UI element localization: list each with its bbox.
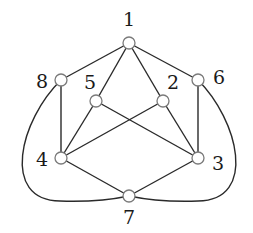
node-4 (55, 152, 67, 164)
node-3 (192, 152, 204, 164)
graph-diagram: 1 2 3 4 5 6 7 8 (0, 0, 253, 233)
node-label-2: 2 (167, 71, 179, 93)
node-label-1: 1 (123, 8, 135, 30)
node-1 (123, 37, 135, 49)
edge-2-3 (163, 101, 198, 158)
node-label-3: 3 (212, 152, 224, 174)
node-2 (157, 95, 169, 107)
node-5 (90, 95, 102, 107)
node-label-8: 8 (36, 70, 48, 92)
node-label-4: 4 (36, 148, 48, 170)
node-7 (123, 190, 135, 202)
node-label-6: 6 (213, 66, 225, 88)
edge-6-7-curved (129, 80, 236, 201)
edge-8-7-curved (22, 80, 129, 201)
edge-5-4 (61, 101, 96, 158)
edges (22, 43, 236, 201)
edge-4-7 (61, 158, 129, 196)
node-label-5: 5 (84, 71, 96, 93)
node-6 (192, 74, 204, 86)
node-label-7: 7 (123, 206, 135, 228)
node-8 (55, 74, 67, 86)
edge-3-7 (129, 158, 198, 196)
